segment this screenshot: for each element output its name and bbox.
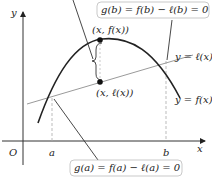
x-axis-label: x [197,143,203,154]
point-l-label: (x, ℓ(x)) [96,87,134,98]
line-label: y = ℓ(x) [174,51,212,62]
brace [92,43,102,80]
mean-value-theorem-diagram: y x O a b (x, f(x)) (x, ℓ(x)) y = ℓ(x) y… [0,0,212,177]
point-f-label: (x, f(x)) [92,24,129,35]
origin-label: O [9,147,17,158]
pointer-top [73,0,93,59]
diagram-canvas: y x O a b (x, f(x)) (x, ℓ(x)) y = ℓ(x) y… [0,0,212,177]
callout-gb-text: g(b) = f(b) − ℓ(b) = 0 [101,4,209,15]
pointer-gb [167,20,172,60]
y-axis-label: y [10,7,17,18]
curve-label: y = f(x) [174,94,212,105]
callout-ga-text: g(a) = f(a) − ℓ(a) = 0 [74,162,181,173]
curve-f [38,39,180,123]
pointer-ga [54,99,98,160]
b-label: b [163,147,169,158]
a-label: a [49,147,55,158]
point-f [97,37,103,43]
point-l [97,79,103,85]
